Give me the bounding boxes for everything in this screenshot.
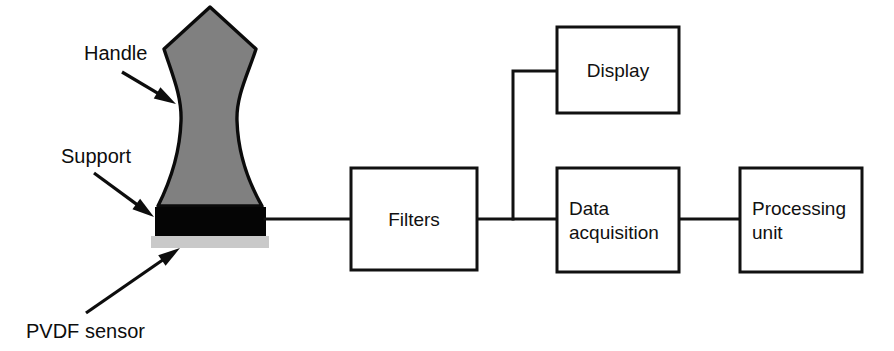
arrowhead-icon-handle: [154, 87, 176, 104]
pvdf-sensor-bar: [151, 236, 269, 248]
connector-branch-to-display: [513, 71, 557, 219]
annotation-pvdf-sensor: PVDF sensor: [26, 248, 180, 342]
handle-shape: [158, 7, 262, 206]
annotation-label-support: Support: [61, 145, 131, 167]
arrowhead-icon-support: [132, 199, 154, 217]
block-filters[interactable]: Filters: [351, 168, 477, 270]
block-group: FiltersDisplayDataacquisitionProcessingu…: [351, 27, 862, 272]
leader-line-handle: [122, 72, 161, 95]
annotation-label-handle: Handle: [84, 42, 147, 64]
block-data-acquisition[interactable]: Dataacquisition: [557, 168, 679, 272]
block-display[interactable]: Display: [557, 27, 679, 113]
block-label-processing-unit: unit: [752, 222, 783, 243]
annotation-support: Support: [61, 145, 154, 217]
block-outline-processing-unit: [740, 168, 862, 272]
sensor-assembly-group: [151, 7, 269, 248]
block-label-processing-unit: Processing: [752, 198, 846, 219]
system-block-diagram: FiltersDisplayDataacquisitionProcessingu…: [0, 0, 894, 351]
leader-line-pvdf-sensor: [86, 258, 165, 313]
block-outline-data-acquisition: [557, 168, 679, 272]
block-label-data-acquisition: acquisition: [569, 222, 659, 243]
block-label-data-acquisition: Data: [569, 198, 610, 219]
block-processing-unit[interactable]: Processingunit: [740, 168, 862, 272]
block-label-filters: Filters: [388, 209, 440, 230]
annotation-group: HandleSupportPVDF sensor: [26, 42, 180, 342]
leader-line-support: [94, 173, 139, 206]
diagram-canvas: FiltersDisplayDataacquisitionProcessingu…: [0, 0, 894, 351]
arrowhead-icon-pvdf-sensor: [158, 248, 180, 266]
annotation-label-pvdf-sensor: PVDF sensor: [26, 320, 145, 342]
block-label-display: Display: [587, 60, 650, 81]
annotation-handle: Handle: [84, 42, 176, 104]
support-bar: [155, 207, 266, 236]
